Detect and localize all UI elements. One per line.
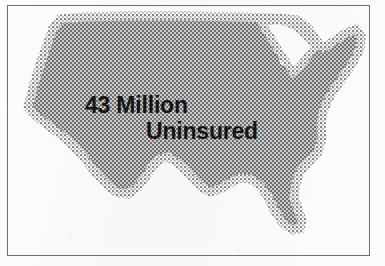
poster-canvas: 43 Million Uninsured <box>0 0 385 266</box>
map-plate: 43 Million Uninsured <box>8 6 369 255</box>
map-edge-halftone <box>8 6 369 255</box>
united-states-map-icon <box>8 6 369 255</box>
